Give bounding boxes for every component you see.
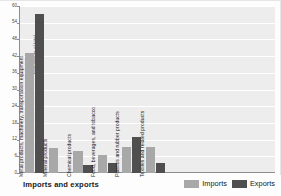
bar-imports	[122, 147, 131, 173]
y-axis-tick-label: 60	[0, 4, 17, 9]
category-label: Chemical products	[66, 134, 72, 177]
legend-item[interactable]: Imports	[184, 179, 227, 188]
category-label: Metal products, machinery, transportatio…	[18, 56, 24, 177]
bar-series-container	[20, 6, 275, 173]
category-label: Textiles and related products	[139, 111, 145, 177]
y-axis-tick-mark	[17, 6, 19, 7]
bar-imports	[98, 155, 107, 173]
chart-legend: ImportsExports	[184, 179, 275, 188]
bar-group	[146, 6, 165, 173]
y-axis-tick-mark	[17, 23, 19, 24]
y-axis-tick-label: 42	[0, 54, 17, 59]
y-axis-tick-label: 18	[0, 121, 17, 126]
bar-imports	[49, 148, 58, 173]
bar-imports	[73, 151, 82, 173]
category-label: Food, beverages, and tobacco	[90, 107, 96, 177]
legend-swatch-icon	[184, 180, 199, 188]
y-axis-tick-label: 12	[0, 137, 17, 142]
y-axis-tick-label: 54	[0, 20, 17, 25]
y-axis-tick-label: 30	[0, 87, 17, 92]
chart-footer: Imports and exports ImportsExports	[0, 176, 281, 196]
y-axis-tick-label: 48	[0, 37, 17, 42]
bar-imports	[25, 53, 34, 173]
legend-label: Imports	[202, 179, 227, 188]
y-axis-tick-label: 6	[0, 154, 17, 159]
chart-title: Imports and exports	[23, 180, 99, 189]
chart-page: Percentage of total 60544842363024181260…	[0, 0, 281, 196]
y-axis-tick-label: 24	[0, 104, 17, 109]
legend-item[interactable]: Exports	[232, 179, 275, 188]
page-top-edge	[0, 0, 281, 1]
y-axis-tick-mark	[17, 39, 19, 40]
y-axis-tick-label: 0	[0, 171, 17, 176]
bar-exports	[156, 163, 165, 173]
y-axis-tick-label: 36	[0, 70, 17, 75]
legend-label: Exports	[250, 179, 275, 188]
category-label: Mineral products	[42, 139, 48, 177]
category-label: Plastics and rubber products	[114, 111, 120, 177]
page-right-edge	[280, 0, 281, 175]
legend-swatch-icon	[232, 180, 247, 188]
bar-imports	[146, 147, 155, 173]
